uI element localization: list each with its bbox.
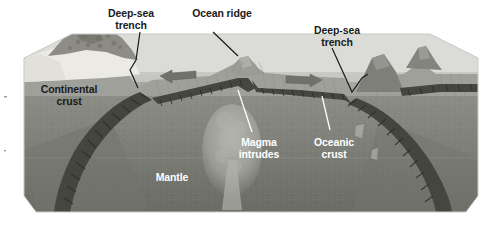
label-magma-intrudes: Magma intrudes <box>228 137 290 160</box>
label-deep-sea-trench-left: Deep-sea trench <box>100 8 162 31</box>
label-oceanic-crust: Oceanic crust <box>306 137 362 160</box>
label-continental-crust: Continental crust <box>32 84 106 107</box>
label-ocean-ridge: Ocean ridge <box>183 8 261 20</box>
edge-artifacts <box>4 96 7 151</box>
label-mantle: Mantle <box>145 172 199 184</box>
tectonics-block-diagram <box>0 0 497 227</box>
label-deep-sea-trench-right: Deep-sea trench <box>306 25 368 48</box>
diagram-canvas: Deep-sea trench Ocean ridge Deep-sea tre… <box>0 0 497 227</box>
